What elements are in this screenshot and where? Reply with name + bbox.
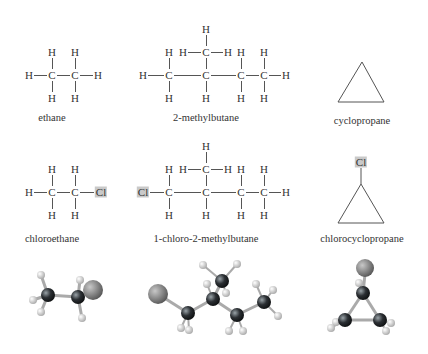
label-chlorocyclopropane: chlorocyclopropane [320, 233, 403, 244]
chlorocyclopropane-ring [338, 184, 384, 223]
label-ethane: ethane [38, 112, 65, 123]
label-1-chloro-2-methylbutane: 1-chloro-2-methylbutane [154, 233, 259, 244]
cyclopropane-ring [338, 62, 384, 102]
label-chloroethane: chloroethane [25, 233, 79, 244]
label-cyclopropane: cyclopropane [334, 115, 391, 126]
chloromethylbutane-model [148, 260, 282, 335]
chloroethane-model [29, 271, 103, 322]
ball-and-stick-models [0, 0, 428, 354]
label-2-methylbutane: 2-methylbutane [173, 112, 239, 123]
chlorocyclopropane-model [327, 259, 395, 335]
